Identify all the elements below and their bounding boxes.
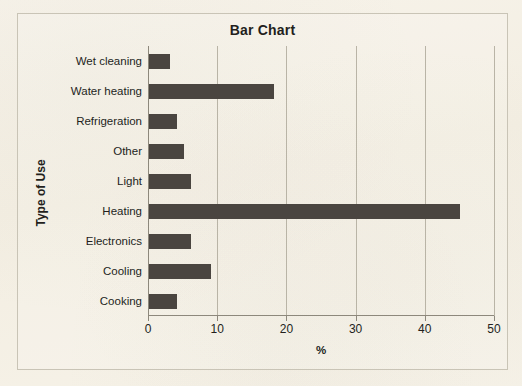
chart-frame: Bar Chart Type of Use Wet cleaningWater …: [17, 13, 508, 370]
x-tick-mark: [425, 316, 426, 321]
bar-category-label: Water heating: [71, 76, 142, 106]
bar-row: Refrigeration: [149, 106, 177, 136]
gridline: [356, 46, 357, 316]
x-tick-mark: [148, 316, 149, 321]
bar-category-label: Wet cleaning: [76, 46, 142, 76]
bar: [149, 204, 460, 219]
bar-category-label: Light: [117, 166, 142, 196]
bar: [149, 174, 191, 189]
bar: [149, 114, 177, 129]
bar: [149, 54, 170, 69]
x-tick-mark: [494, 316, 495, 321]
x-tick-label: 30: [349, 322, 362, 336]
bar-row: Cooling: [149, 256, 211, 286]
x-tick-label: 10: [211, 322, 224, 336]
x-tick-label: 50: [487, 322, 500, 336]
x-tick-mark: [217, 316, 218, 321]
x-axis-line: [148, 315, 494, 316]
bar: [149, 84, 274, 99]
x-axis-title: %: [148, 344, 494, 356]
bar-category-label: Cooking: [100, 286, 142, 316]
x-tick-mark: [286, 316, 287, 321]
bar-category-label: Electronics: [86, 226, 142, 256]
bar: [149, 264, 211, 279]
gridline: [286, 46, 287, 316]
x-tick-label: 20: [280, 322, 293, 336]
bar-row: Water heating: [149, 76, 274, 106]
bar-row: Light: [149, 166, 191, 196]
plot-area: Wet cleaningWater heatingRefrigerationOt…: [148, 46, 494, 316]
bar-category-label: Heating: [102, 196, 142, 226]
bar: [149, 294, 177, 309]
bar: [149, 234, 191, 249]
gridline: [425, 46, 426, 316]
bar-category-label: Cooling: [103, 256, 142, 286]
bar-row: Wet cleaning: [149, 46, 170, 76]
x-tick-mark: [356, 316, 357, 321]
bar-row: Other: [149, 136, 184, 166]
bar-category-label: Other: [113, 136, 142, 166]
bar-row: Heating: [149, 196, 460, 226]
bar-row: Electronics: [149, 226, 191, 256]
bar: [149, 144, 184, 159]
chart-title: Bar Chart: [18, 22, 507, 38]
x-tick-label: 40: [418, 322, 431, 336]
gridline: [494, 46, 495, 316]
x-tick-label: 0: [145, 322, 152, 336]
bar-row: Cooking: [149, 286, 177, 316]
y-axis-title: Type of Use: [31, 14, 51, 371]
y-axis-title-text: Type of Use: [34, 159, 48, 226]
bar-category-label: Refrigeration: [76, 106, 142, 136]
